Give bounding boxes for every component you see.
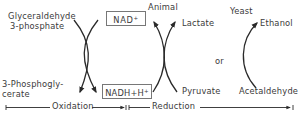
- nad-text: NAD: [113, 15, 133, 25]
- acetaldehyde-label: Acetaldehyde: [239, 87, 298, 97]
- lactate-label: Lactate: [182, 19, 214, 29]
- nadh-sup: +: [144, 88, 149, 94]
- scale-bar: [6, 105, 293, 110]
- oxidation-arrow-cofactor: [84, 20, 98, 92]
- nadh-text: NADH+H: [105, 88, 144, 98]
- reduction-arrow-substrate: [164, 22, 177, 92]
- pyruvate-label: Pyruvate: [182, 87, 221, 97]
- oxidation-scale-label: Oxidation: [52, 102, 94, 112]
- 3-phosphoglycerate-label: 3-Phosphogly- cerate: [2, 80, 63, 99]
- reduction-scale-label: Reduction: [152, 102, 195, 112]
- oxidation-arrow-substrate: [74, 20, 88, 92]
- ethanol-label: Ethanol: [260, 19, 293, 29]
- animal-label: Animal: [148, 3, 178, 13]
- nadh-box: NADH+H+: [102, 84, 152, 99]
- nad-sup: +: [133, 15, 138, 21]
- yeast-label: Yeast: [230, 7, 253, 17]
- glyceraldehyde-3-phosphate-label: Glyceraldehyde 3-phosphate: [8, 12, 76, 31]
- or-label: or: [215, 57, 224, 67]
- reduction-arrow-cofactor: [153, 22, 164, 92]
- product-line2: cerate: [2, 90, 63, 100]
- substrate-line2: 3-phosphate: [8, 22, 76, 32]
- nad-plus-box: NAD+: [106, 11, 146, 26]
- yeast-arrow: [243, 23, 257, 88]
